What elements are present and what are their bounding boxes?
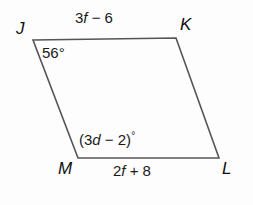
angle-measure-label-M: (3d − 2)° (79, 131, 135, 147)
vertex-label-M: M (58, 160, 72, 177)
angle-M-prefix: (3 (79, 131, 92, 148)
side-length-label-JK: 3f − 6 (75, 10, 113, 25)
angle-M-variable: d (92, 131, 100, 148)
vertex-label-L: L (222, 160, 231, 177)
angle-M-degree-symbol: ° (131, 130, 135, 141)
side-JK-suffix: − 6 (88, 9, 113, 26)
angle-M-suffix: − 2) (101, 131, 131, 148)
side-length-label-ML: 2f + 8 (113, 163, 151, 178)
vertex-label-K: K (180, 16, 191, 33)
geometry-figure: J K L M 3f − 6 2f + 8 56° (3d − 2)° (0, 0, 253, 205)
side-ML-suffix: + 8 (126, 162, 151, 179)
vertex-label-J: J (16, 20, 25, 37)
angle-measure-label-J: 56° (42, 45, 65, 60)
